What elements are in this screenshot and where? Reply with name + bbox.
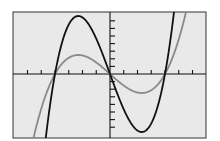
cubic-graph [0,0,220,141]
